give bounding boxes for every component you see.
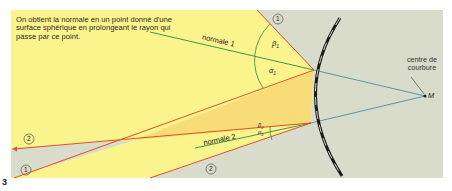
centre-point-icon [424,95,427,98]
ray-1-number-bottom: 1 [24,166,28,173]
alpha-2-label: α2 [258,129,263,137]
alpha-1-label: α1 [269,66,276,76]
ray-2-number-left: 2 [27,135,31,142]
beta-1-label: β1 [272,39,279,49]
caption-text: On obtient la normale en un point donné … [16,16,176,41]
ray-2-number-bottom: 2 [209,165,213,172]
ray-1-number-top: 1 [276,15,280,22]
concave-mirror-diagram: On obtient la normale en un point donné … [0,0,452,191]
figure-number: 3 [2,177,7,187]
centre-label: centre de courbure [392,56,452,72]
point-m-label: M [428,91,434,100]
